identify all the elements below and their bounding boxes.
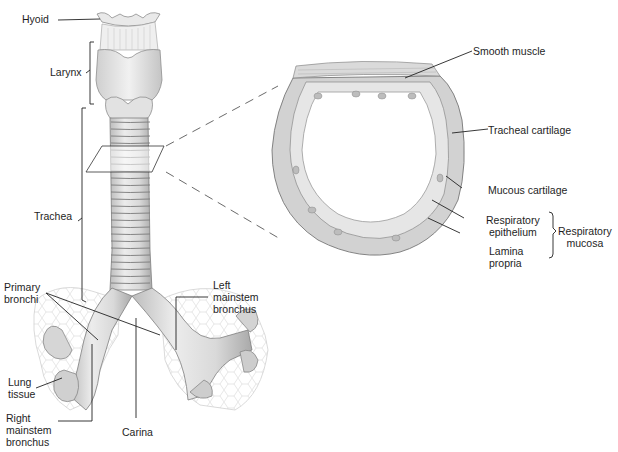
label-carina: Carina [122, 426, 153, 438]
projection-lines [166, 86, 282, 240]
tracheal-ring [111, 178, 150, 179]
section-plane [86, 146, 164, 172]
label-mucous-cartilage: Mucous cartilage [488, 184, 567, 196]
tracheal-ring [111, 192, 150, 193]
tracheal-ring [111, 276, 150, 277]
thyrohyoid-membrane [100, 22, 158, 50]
tracheal-ring [111, 185, 150, 186]
tracheal-ring [111, 122, 150, 123]
label-left-mainstem-bronchus: Left mainstem bronchus [213, 279, 259, 315]
label-lamina-propria: Lamina propria [489, 245, 523, 269]
tracheal-ring [111, 136, 150, 137]
tracheal-ring [111, 234, 150, 235]
label-tracheal-cartilage: Tracheal cartilage [488, 124, 571, 136]
label-primary-bronchi: Primary bronchi [4, 281, 40, 305]
larynx-cartilage [96, 50, 162, 122]
tracheal-ring [111, 213, 150, 214]
anatomy-figure: Hyoid Larynx Trachea Primary bronchi Lef… [0, 0, 618, 452]
tracheal-ring [111, 255, 150, 256]
tracheal-ring [111, 227, 150, 228]
label-larynx: Larynx [50, 66, 82, 78]
tracheal-ring [111, 248, 150, 249]
tracheal-ring [111, 206, 150, 207]
trachea-cross-section [272, 61, 464, 255]
label-respiratory-epithelium: Respiratory epithelium [486, 214, 540, 238]
trachea-tube [110, 118, 152, 290]
tracheal-ring [111, 220, 150, 221]
label-trachea: Trachea [34, 210, 72, 222]
tracheal-ring [111, 129, 150, 130]
tracheal-ring [111, 262, 150, 263]
label-respiratory-mucosa: Respiratory mucosa [558, 225, 612, 249]
label-right-mainstem-bronchus: Right mainstem bronchus [6, 412, 52, 448]
tracheal-ring [111, 241, 150, 242]
label-smooth-muscle: Smooth muscle [473, 45, 545, 57]
tracheal-ring [111, 283, 150, 284]
label-hyoid: Hyoid [22, 13, 49, 25]
tracheal-ring [111, 199, 150, 200]
tracheal-ring [111, 269, 150, 270]
tracheal-ring [111, 143, 150, 144]
label-lung-tissue: Lung tissue [8, 376, 35, 400]
